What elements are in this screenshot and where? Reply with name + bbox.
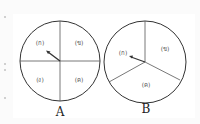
section-label: (ข): [75, 39, 84, 46]
section-label: (ค): [75, 76, 84, 83]
section-label: (ค): [142, 81, 151, 88]
section-label: (ก): [119, 49, 128, 56]
section-label: (ข): [161, 45, 170, 52]
spinner-b-caption: B: [142, 102, 151, 116]
spinner-a-caption: A: [55, 105, 65, 119]
spinner-diagram: (ก) (ข) (ค) (ง) A (ก) (ข) (ค) B: [0, 0, 200, 124]
edge-marks: [4, 16, 6, 99]
section-label: (ก): [36, 39, 45, 46]
section-label: (ง): [36, 76, 44, 83]
